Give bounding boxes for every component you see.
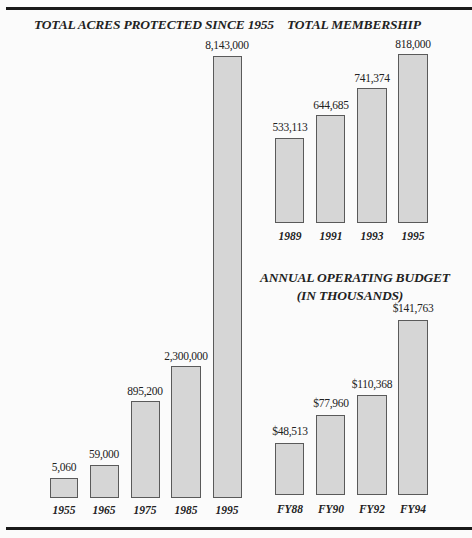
bar-fy88 <box>275 443 304 495</box>
budget-chart-title-line-1: ANNUAL OPERATING BUDGET <box>260 270 440 286</box>
bar-fy90 <box>316 415 345 495</box>
category-label: 1995 <box>383 230 443 242</box>
acres-chart-title: TOTAL ACRES PROTECTED SINCE 1955 <box>34 17 260 33</box>
bar-value-label: 818,000 <box>373 38 453 50</box>
bar-1975 <box>131 401 160 498</box>
bar-fy94 <box>398 320 428 495</box>
bar-1991 <box>316 115 345 223</box>
bottom-rule <box>6 527 472 530</box>
category-label: 1995 <box>197 504 257 516</box>
bar-value-label: $141,763 <box>373 302 453 314</box>
bar-1989 <box>275 138 304 223</box>
bar-1993 <box>357 88 387 223</box>
bar-value-label: 8,143,000 <box>187 39 267 51</box>
bar-1965 <box>90 465 119 498</box>
membership-chart-title: TOTAL MEMBERSHIP <box>287 17 417 33</box>
bar-1955 <box>50 478 78 498</box>
bar-1985 <box>171 366 201 498</box>
bar-fy92 <box>357 395 387 495</box>
bar-1995 <box>398 54 428 223</box>
bar-1995 <box>213 56 242 498</box>
top-rule <box>6 7 472 10</box>
category-label: FY94 <box>383 503 443 515</box>
